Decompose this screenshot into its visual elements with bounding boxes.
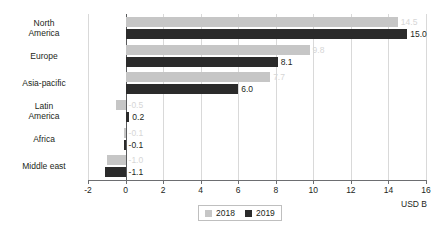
legend-swatch-2019-icon	[245, 210, 252, 217]
x-tick-label: 4	[198, 185, 203, 195]
gridline	[313, 14, 314, 180]
x-tick	[313, 180, 314, 184]
plot-area: 14.515.09.88.17.76.0-0.50.2-0.1-0.1-1.0-…	[88, 14, 426, 180]
x-tick	[426, 180, 427, 184]
category-label: North America	[0, 18, 88, 38]
legend-item-2019[interactable]: 2019	[245, 208, 275, 218]
gridline	[201, 14, 202, 180]
legend-swatch-2018-icon	[205, 210, 212, 217]
bar-2018[interactable]	[126, 72, 271, 82]
bar-value-label: 15.0	[410, 29, 427, 39]
bar-2018[interactable]	[126, 17, 398, 27]
gridline	[88, 14, 89, 180]
bar-2019[interactable]	[124, 140, 126, 150]
bar-2018[interactable]	[116, 100, 125, 110]
category-axis: North AmericaEuropeAsia-pacificLatin Ame…	[0, 14, 88, 180]
zero-axis-line	[126, 14, 127, 180]
bar-value-label: 9.8	[313, 45, 325, 55]
x-tick-label: 2	[161, 185, 166, 195]
x-tick-label: -2	[84, 185, 92, 195]
x-axis-title: USD B	[401, 199, 427, 209]
x-tick	[126, 180, 127, 184]
legend-label-2019: 2019	[256, 208, 275, 218]
bar-2019[interactable]	[105, 167, 126, 177]
x-tick-label: 10	[309, 185, 318, 195]
x-tick	[351, 180, 352, 184]
bar-value-label: 14.5	[401, 17, 418, 27]
bar-value-label: -0.1	[129, 140, 144, 150]
bar-value-label: -0.1	[129, 128, 144, 138]
bar-value-label: 0.2	[132, 112, 144, 122]
x-tick-label: 16	[421, 185, 430, 195]
x-tick-label: 6	[236, 185, 241, 195]
x-tick	[388, 180, 389, 184]
bar-2019[interactable]	[126, 112, 130, 122]
x-tick	[238, 180, 239, 184]
gridline	[163, 14, 164, 180]
bar-2019[interactable]	[126, 57, 278, 67]
gridline	[276, 14, 277, 180]
bar-value-label: 8.1	[281, 57, 293, 67]
x-tick-label: 12	[346, 185, 355, 195]
bar-value-label: -0.5	[129, 100, 144, 110]
legend-item-2018[interactable]: 2018	[205, 208, 235, 218]
x-tick-label: 8	[273, 185, 278, 195]
category-label: Middle east	[0, 161, 88, 171]
bar-value-label: -1.1	[129, 167, 144, 177]
x-tick-label: 14	[384, 185, 393, 195]
category-label: Latin America	[0, 101, 88, 121]
bar-chart: North AmericaEuropeAsia-pacificLatin Ame…	[0, 0, 435, 231]
category-label: Europe	[0, 51, 88, 61]
bar-2018[interactable]	[124, 128, 126, 138]
gridline	[388, 14, 389, 180]
gridline	[351, 14, 352, 180]
legend: 2018 2019	[198, 205, 282, 221]
bar-value-label: 7.7	[273, 72, 285, 82]
bar-2018[interactable]	[107, 155, 126, 165]
x-tick	[201, 180, 202, 184]
bar-2019[interactable]	[126, 29, 408, 39]
x-tick	[163, 180, 164, 184]
bar-2018[interactable]	[126, 45, 310, 55]
x-tick	[88, 180, 89, 184]
gridline	[238, 14, 239, 180]
x-axis-line	[88, 180, 426, 181]
legend-label-2018: 2018	[216, 208, 235, 218]
category-label: Asia-pacific	[0, 78, 88, 88]
x-tick-label: 0	[123, 185, 128, 195]
gridline	[426, 14, 427, 180]
x-tick	[276, 180, 277, 184]
bar-value-label: -1.0	[129, 155, 144, 165]
category-label: Africa	[0, 134, 88, 144]
bar-2019[interactable]	[126, 84, 239, 94]
bar-value-label: 6.0	[241, 84, 253, 94]
